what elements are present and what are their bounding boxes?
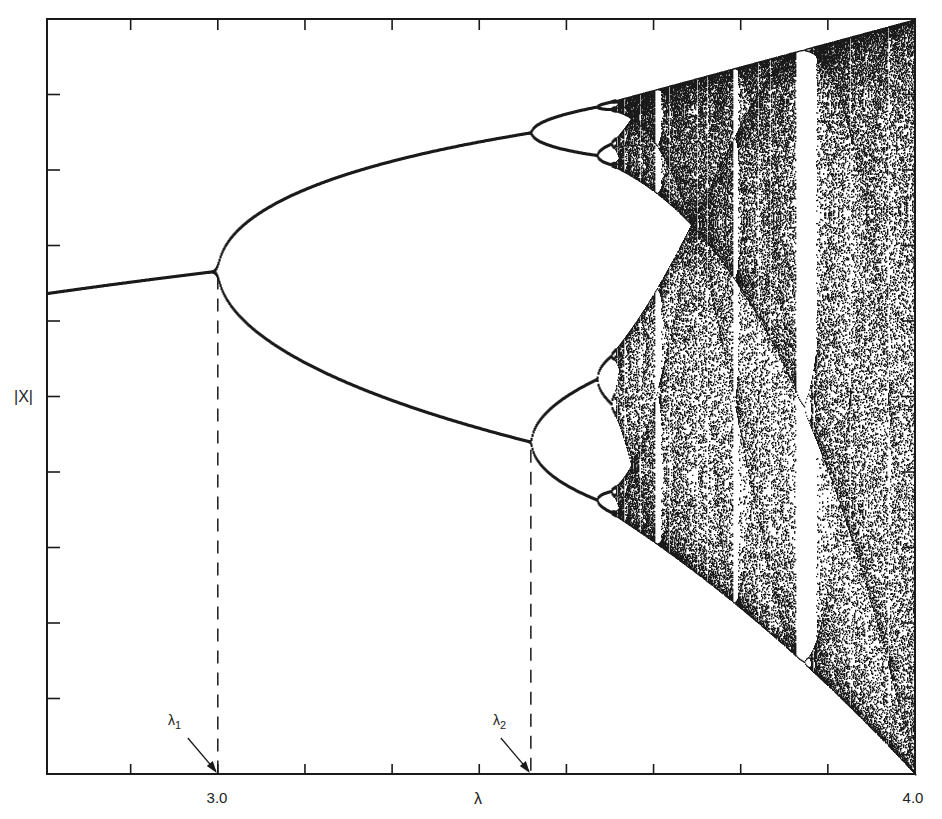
x-tick-label-4: 4.0: [903, 789, 924, 806]
plot-frame: [47, 19, 915, 774]
lambda1-subscript: 1: [175, 719, 181, 731]
bifurcation-markers: [188, 276, 531, 774]
lambda2-symbol: λ: [493, 712, 500, 728]
lambda2-annotation: λ2: [493, 712, 506, 731]
x-tick-label-3: 3.0: [207, 789, 228, 806]
axis-ticks: [47, 19, 915, 774]
x-axis-label: λ: [474, 790, 482, 808]
lambda1-annotation: λ1: [168, 712, 181, 731]
bifurcation-points: [47, 19, 917, 775]
y-axis-label: |X|: [14, 388, 33, 406]
lambda1-symbol: λ: [168, 712, 175, 728]
bifurcation-chart: [0, 0, 942, 819]
lambda2-subscript: 2: [500, 719, 506, 731]
